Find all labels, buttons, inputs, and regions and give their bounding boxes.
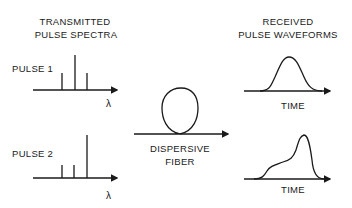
pulse2-spectrum [33, 135, 117, 178]
waveform1 [244, 57, 330, 91]
dispersive-fiber [134, 88, 228, 134]
diagram-graphics [0, 0, 352, 208]
pulse1-spectrum [33, 55, 117, 90]
waveform2 [244, 135, 330, 179]
